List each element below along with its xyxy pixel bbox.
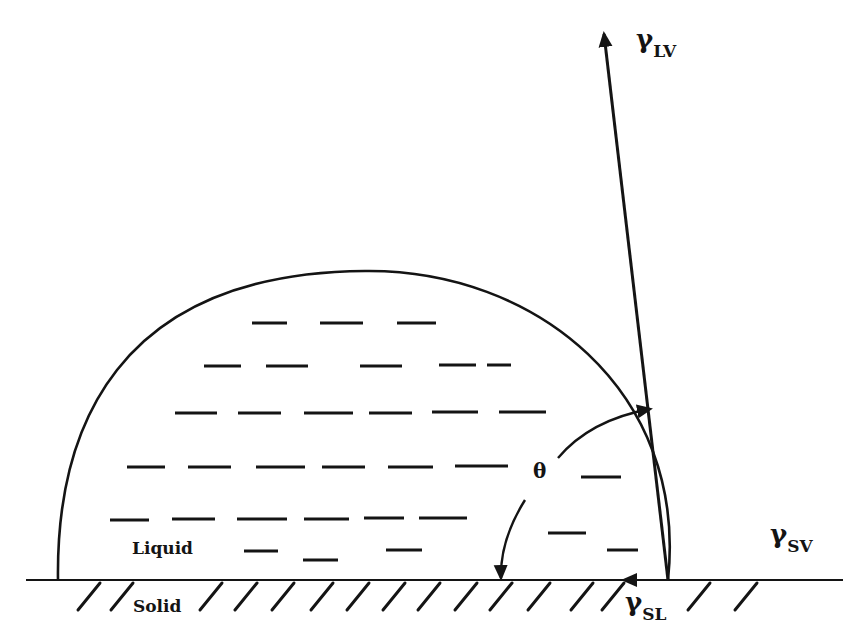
gamma-sl-subscript: SL [642, 604, 666, 624]
hatch-mark [347, 583, 369, 610]
gamma-lv-vector-arrow [604, 34, 668, 580]
hatch-mark [571, 583, 593, 610]
gamma-sl-symbol: γ [625, 587, 643, 617]
gamma-sv-subscript: SV [787, 536, 813, 556]
gamma-lv-subscript: LV [653, 41, 677, 61]
hatch-mark [735, 583, 757, 610]
gamma-sv-label: γSV [770, 519, 813, 556]
liquid-dashes [110, 323, 638, 560]
hatch-mark [688, 583, 710, 610]
hatch-mark [235, 583, 257, 610]
gamma-sv-symbol: γ [770, 519, 788, 549]
hatch-mark [200, 583, 222, 610]
hatch-mark [490, 583, 512, 610]
theta-arc-lower-arrow [501, 500, 525, 578]
hatch-mark [272, 583, 294, 610]
hatch-mark [602, 583, 624, 610]
hatch-mark [111, 583, 133, 610]
gamma-lv-label: γLV [636, 24, 677, 61]
hatch-mark [311, 583, 333, 610]
hatch-mark [418, 583, 440, 610]
gamma-lv-symbol: γ [636, 24, 654, 54]
hatch-mark [78, 583, 100, 610]
liquid-label: Liquid [132, 538, 193, 558]
hatch-mark [383, 583, 405, 610]
solid-label: Solid [133, 596, 182, 616]
theta-label: θ [533, 459, 546, 483]
hatch-mark [528, 583, 550, 610]
diagram-canvas: γLV γSV γSL θ Liquid Solid [0, 0, 866, 640]
hatch-mark [455, 583, 477, 610]
gamma-sl-label: γSL [625, 587, 666, 624]
contact-angle-diagram: γLV γSV γSL θ Liquid Solid [0, 0, 866, 640]
